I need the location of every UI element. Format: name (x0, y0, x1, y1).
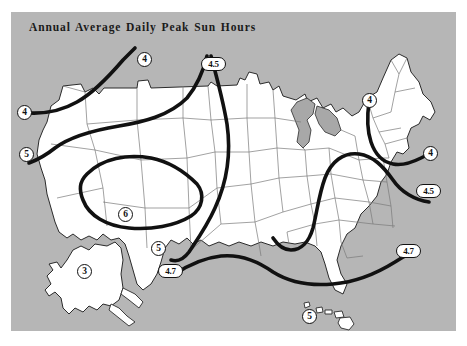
island-kauai (304, 302, 310, 308)
map-panel: Annual Average Daily Peak Sun Hours (11, 12, 456, 331)
island-oahu (316, 307, 323, 313)
contour-label-desert-southwest-6: 6 (118, 207, 133, 222)
contour-label-south-central-5: 5 (151, 241, 166, 256)
aleutian-tail (109, 304, 135, 326)
contour-label-north-plains-4: 4 (137, 52, 152, 67)
island-maui (334, 311, 344, 318)
contour-4-7-gulf (175, 254, 409, 285)
contour-label-florida-47: 4.7 (396, 244, 421, 258)
alaska-panhandle (121, 288, 143, 308)
contour-label-upper-midwest-45: 4.5 (201, 57, 226, 71)
contour-label-texas-coast-47: 4.7 (158, 264, 183, 278)
contour-label-hawaii-5: 5 (302, 309, 317, 324)
contour-label-carolina-45: 4.5 (416, 184, 441, 198)
contour-label-pacific-northwest-4: 4 (17, 105, 32, 120)
island-molokai (325, 310, 332, 314)
island-hawaii (338, 317, 354, 330)
usa-solar-map (11, 12, 456, 331)
contour-label-northeast-4: 4 (362, 93, 377, 108)
contour-label-california-coast-5: 5 (19, 147, 34, 162)
contour-label-alaska-3: 3 (77, 264, 92, 279)
contour-label-mid-atlantic-4: 4 (423, 146, 438, 161)
figure-container: Annual Average Daily Peak Sun Hours (0, 0, 467, 346)
